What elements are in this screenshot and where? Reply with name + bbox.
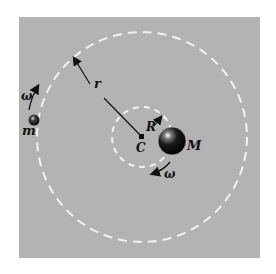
label-C: C: [136, 141, 146, 155]
label-omega-large: ω: [164, 167, 176, 181]
label-M: M: [186, 138, 202, 153]
radius-r-arrow: [74, 58, 90, 84]
label-omega-small: ω: [21, 89, 33, 103]
label-R: R: [145, 120, 156, 134]
radius-r-line: [104, 98, 142, 137]
center-point: [139, 134, 144, 139]
orbit-diagram: r R C M ω m ω: [0, 0, 276, 274]
label-m: m: [22, 123, 36, 138]
label-r: r: [94, 76, 102, 91]
